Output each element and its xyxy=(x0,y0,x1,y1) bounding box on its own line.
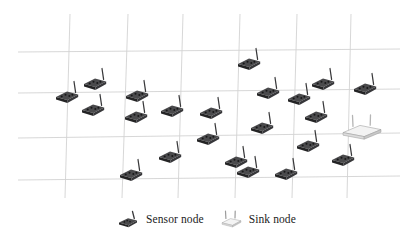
node-led-3 xyxy=(138,94,140,96)
node-led-1 xyxy=(164,155,166,157)
antenna xyxy=(243,147,245,158)
grid-lines xyxy=(18,14,400,198)
node-led-4 xyxy=(71,94,73,96)
antenna xyxy=(143,102,145,113)
node-led-4 xyxy=(290,171,292,173)
antenna xyxy=(74,82,76,93)
node-led-1 xyxy=(359,87,361,89)
legend-label-sensor-node: Sensor node xyxy=(146,213,204,225)
diagram-svg xyxy=(0,0,411,200)
grid-line-vertical-4 xyxy=(235,14,240,198)
node-led-1 xyxy=(243,62,245,64)
antenna xyxy=(269,113,271,124)
sensor-2 xyxy=(84,69,106,90)
sensor-12 xyxy=(257,78,279,99)
sensor-4 xyxy=(126,81,148,102)
antenna xyxy=(215,124,217,135)
node-led-4 xyxy=(97,107,99,109)
node-led-1 xyxy=(280,172,282,174)
node-led-2 xyxy=(168,154,170,156)
node-led-4 xyxy=(369,86,371,88)
grid-line-horizontal-1 xyxy=(18,49,400,52)
node-led-4 xyxy=(212,136,214,138)
sensor-node-layer xyxy=(56,49,376,181)
node-led-2 xyxy=(93,81,95,83)
node-led-3 xyxy=(173,109,175,111)
legend: Sensor node Sink node xyxy=(0,198,411,240)
sensor-17 xyxy=(305,102,327,123)
node-led-4 xyxy=(252,169,254,171)
antenna xyxy=(144,81,146,92)
node-led-2 xyxy=(206,136,208,138)
node-led-1 xyxy=(89,82,91,84)
sensor-18 xyxy=(297,131,319,152)
node-led-1 xyxy=(242,170,244,172)
node-led-2 xyxy=(266,90,268,92)
legend-item-sink-node: Sink node xyxy=(218,209,296,229)
node-led-1 xyxy=(317,82,319,84)
sensor-3 xyxy=(82,95,104,116)
node-led-3 xyxy=(171,155,173,157)
grid-line-vertical-2 xyxy=(122,14,128,198)
node-led-3 xyxy=(250,62,252,64)
node-led-4 xyxy=(240,159,242,161)
node-led-2 xyxy=(341,157,343,159)
node-led-3 xyxy=(132,173,134,175)
antenna xyxy=(138,160,140,171)
node-led-2 xyxy=(134,114,136,116)
sensor-node-icon xyxy=(115,209,141,229)
node-led-2 xyxy=(234,159,236,161)
node-led-4 xyxy=(174,154,176,156)
node-led-3 xyxy=(237,160,239,162)
node-led-2 xyxy=(321,81,323,83)
node-led-1 xyxy=(262,91,264,93)
node-led-2 xyxy=(91,107,93,109)
sensor-10 xyxy=(197,124,219,145)
node-led-1 xyxy=(87,108,89,110)
node-led-1 xyxy=(205,111,207,113)
node-led-3 xyxy=(324,82,326,84)
antenna-left xyxy=(353,116,354,127)
node-led-1 xyxy=(202,137,204,139)
node-led-2 xyxy=(135,93,137,95)
node-led-1 xyxy=(131,94,133,96)
node-led-1 xyxy=(125,173,127,175)
node-led-4 xyxy=(135,172,137,174)
node-led-3 xyxy=(344,158,346,160)
node-led-1 xyxy=(256,126,258,128)
sensor-9 xyxy=(200,98,222,119)
node-led-4 xyxy=(253,61,255,63)
node-led-4 xyxy=(99,81,101,83)
antenna xyxy=(102,69,104,80)
node-led-1 xyxy=(337,158,339,160)
node-led-4 xyxy=(140,114,142,116)
node-led-2 xyxy=(260,125,262,127)
node-led-2 xyxy=(170,108,172,110)
node-led-2 xyxy=(284,171,286,173)
node-led-4 xyxy=(176,108,178,110)
antenna xyxy=(315,131,317,142)
antenna xyxy=(177,142,179,153)
node-led-4 xyxy=(272,90,274,92)
sensor-20 xyxy=(354,74,376,95)
node-led-4 xyxy=(312,143,314,145)
node-led-3 xyxy=(269,91,271,93)
node-led-3 xyxy=(137,115,139,117)
node-led-1 xyxy=(166,109,168,111)
node-led-2 xyxy=(297,96,299,98)
node-led-2 xyxy=(314,114,316,116)
node-led-3 xyxy=(263,126,265,128)
legend-label-sink-node: Sink node xyxy=(249,213,296,225)
node-led-3 xyxy=(212,111,214,113)
node-led-1 xyxy=(230,160,232,162)
grid-line-vertical-1 xyxy=(65,14,70,198)
node-led-1 xyxy=(302,144,304,146)
grid-line-horizontal-4 xyxy=(18,176,400,180)
node-led-2 xyxy=(65,94,67,96)
node-led-3 xyxy=(96,82,98,84)
node-led-1 xyxy=(293,97,295,99)
legend-item-sensor-node: Sensor node xyxy=(115,209,204,229)
node-led-4 xyxy=(303,96,305,98)
node-led-1 xyxy=(61,95,63,97)
sensor-16 xyxy=(312,69,334,90)
